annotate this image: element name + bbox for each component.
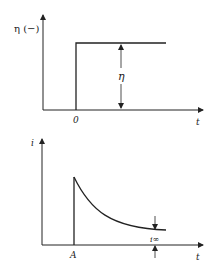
top-x-axis-label: t	[196, 117, 200, 127]
diagram: η η (−) 0 t i∞ i A t	[0, 0, 217, 270]
bottom-x-axis-label: t	[196, 252, 200, 262]
bottom-plot: i∞ i A t	[31, 138, 203, 262]
top-origin-label: 0	[73, 115, 79, 125]
bottom-y-axis-label: i	[31, 138, 34, 148]
i-inf-label: i∞	[150, 235, 159, 244]
start-point-label: A	[69, 250, 77, 260]
current-decay-curve	[74, 177, 166, 230]
top-plot: η η (−) 0 t	[14, 15, 203, 127]
top-y-axis-label: η (−)	[14, 23, 39, 34]
eta-magnitude-label: η	[118, 70, 125, 83]
